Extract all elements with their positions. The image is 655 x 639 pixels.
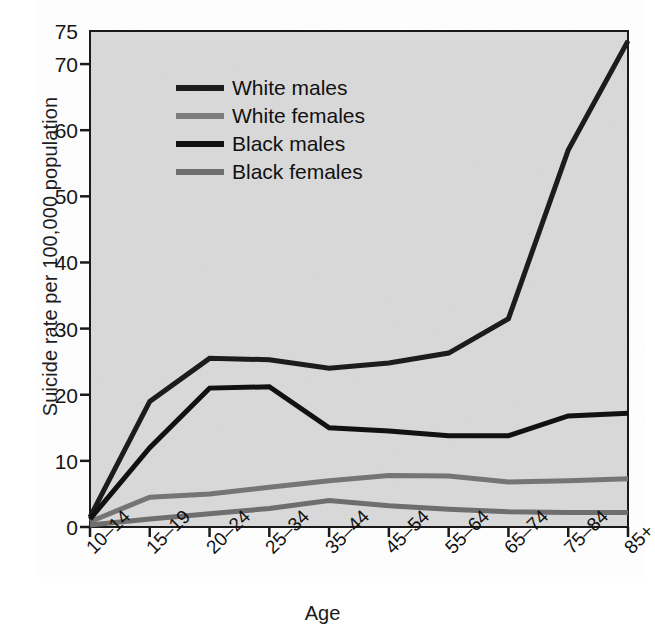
legend-label: White females — [232, 104, 365, 128]
legend-swatch-icon — [176, 85, 224, 91]
x-axis-title: Age — [0, 602, 645, 625]
legend-item[interactable]: White males — [176, 76, 365, 100]
chart-legend: White malesWhite femalesBlack malesBlack… — [176, 76, 365, 188]
legend-swatch-icon — [176, 141, 224, 147]
legend-label: Black males — [232, 132, 345, 156]
legend-item[interactable]: Black females — [176, 160, 365, 184]
legend-swatch-icon — [176, 113, 224, 119]
legend-swatch-icon — [176, 169, 224, 175]
legend-label: Black females — [232, 160, 363, 184]
legend-label: White males — [232, 76, 348, 100]
legend-item[interactable]: Black males — [176, 132, 365, 156]
legend-item[interactable]: White females — [176, 104, 365, 128]
